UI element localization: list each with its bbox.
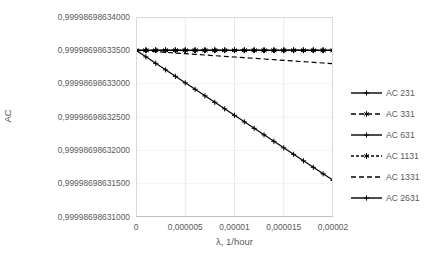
legend-key-icon: [350, 129, 383, 141]
plot-area: [136, 17, 333, 217]
x-axis-tick-label: 0,000005: [168, 221, 203, 233]
legend-item-ac-331[interactable]: AC 331: [350, 103, 440, 124]
y-axis-tick-label: 0,99998698631500: [20, 179, 130, 188]
y-axis-tick-label: 0,99998698632000: [20, 146, 130, 155]
legend-key-icon: [350, 108, 383, 120]
x-axis-title: λ, 1/hour: [136, 236, 333, 247]
y-axis-tick-labels: 0,999986986340000,999986986335000,999986…: [20, 17, 130, 217]
series-ac-1131: [136, 48, 333, 54]
legend-item-ac-1331[interactable]: AC 1331: [350, 166, 440, 187]
legend-label: AC 2631: [386, 192, 419, 204]
data-point-marker: [364, 90, 369, 95]
legend-item-ac-1131[interactable]: AC 1131: [350, 145, 440, 166]
line-chart: AC 0,999986986340000,999986986335000,999…: [0, 0, 442, 271]
y-axis-tick-label: 0,99998698632500: [20, 113, 130, 122]
y-axis-tick-label: 0,99998698633000: [20, 79, 130, 88]
legend-item-ac-631[interactable]: AC 631: [350, 124, 440, 145]
data-point-marker: [364, 132, 369, 137]
x-axis-tick-label: 0,000015: [266, 221, 301, 233]
y-axis-tick-label: 0,99998698633500: [20, 46, 130, 55]
legend-label: AC 331: [386, 108, 415, 120]
legend-label: AC 1331: [386, 171, 419, 183]
x-axis-tick-label: 0,00001: [219, 221, 249, 233]
legend-label: AC 231: [386, 87, 415, 99]
legend-key-icon: [350, 192, 383, 204]
legend-label: AC 1131: [386, 150, 419, 162]
legend-key-icon: [350, 150, 383, 162]
x-axis-tick-labels: 00,0000050,000010,0000150,00002: [120, 221, 360, 235]
plot-series-svg: [136, 17, 333, 217]
y-axis-tick-label: 0,99998698631000: [20, 213, 130, 222]
legend: AC 231AC 331AC 631AC 1131AC 1331AC 2631: [350, 82, 440, 208]
legend-item-ac-2631[interactable]: AC 2631: [350, 187, 440, 208]
legend-key-icon: [350, 87, 383, 99]
legend-key-icon: [350, 171, 383, 183]
legend-label: AC 631: [386, 129, 415, 141]
x-axis-tick-label: 0: [134, 221, 139, 233]
x-axis-tick-label: 0,00002: [318, 221, 348, 233]
legend-item-ac-231[interactable]: AC 231: [350, 82, 440, 103]
data-point-marker: [364, 195, 369, 200]
y-axis-tick-label: 0,99998698634000: [20, 13, 130, 22]
